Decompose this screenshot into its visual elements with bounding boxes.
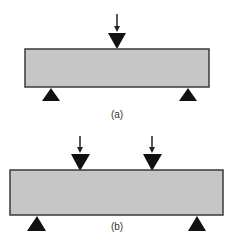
caption-a: (a) <box>102 109 132 120</box>
caption-b: (b) <box>102 221 132 232</box>
support-left-icon <box>27 216 46 231</box>
support-right-icon <box>188 216 206 231</box>
beam-b <box>10 170 223 215</box>
support-right-icon <box>179 88 197 101</box>
support-left-icon <box>42 88 60 101</box>
diagram-canvas <box>0 0 237 250</box>
panel-b <box>10 136 223 231</box>
load-arrow-icon <box>71 136 90 171</box>
load-arrow-icon <box>143 136 162 171</box>
panel-a <box>25 14 209 101</box>
beam-bending-figure: (a) (b) <box>0 0 237 250</box>
load-arrow-icon <box>108 14 126 49</box>
